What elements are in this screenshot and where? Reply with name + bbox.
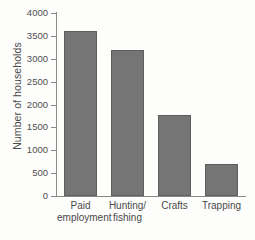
- y-axis-tick-label: 1500: [8, 122, 48, 132]
- x-axis-tick-label: Hunting/ fishing: [104, 200, 151, 224]
- x-axis-line: [56, 196, 246, 197]
- y-axis-tick: [51, 82, 56, 83]
- y-axis-title: Number of households: [9, 0, 25, 196]
- y-axis-tick-label: 500: [8, 168, 48, 178]
- y-axis-tick-label: 2500: [8, 77, 48, 87]
- y-axis-tick-label: 1000: [8, 145, 48, 155]
- bar: [111, 50, 144, 196]
- bar: [64, 31, 97, 196]
- y-axis-tick: [51, 105, 56, 106]
- y-axis-tick: [51, 150, 56, 151]
- y-axis-tick-label: 3500: [8, 31, 48, 41]
- y-axis-tick: [51, 13, 56, 14]
- y-axis-tick-label: 3000: [8, 54, 48, 64]
- bar: [205, 164, 238, 196]
- y-axis-tick: [51, 59, 56, 60]
- x-axis-tick-label: Trapping: [198, 200, 245, 212]
- bar: [158, 115, 191, 196]
- y-axis-tick: [51, 196, 56, 197]
- y-axis-tick-label: 2000: [8, 100, 48, 110]
- x-axis-tick-label: Crafts: [151, 200, 198, 212]
- x-axis-tick-label: Paid employment: [57, 200, 104, 224]
- plot-area: [57, 13, 245, 196]
- y-axis-tick: [51, 127, 56, 128]
- y-axis-tick-label: 0: [8, 191, 48, 201]
- bar-chart-figure: Number of households 4000350030002500200…: [0, 0, 255, 240]
- y-axis-tick-label: 4000: [8, 8, 48, 18]
- y-axis-tick: [51, 173, 56, 174]
- y-axis-tick: [51, 36, 56, 37]
